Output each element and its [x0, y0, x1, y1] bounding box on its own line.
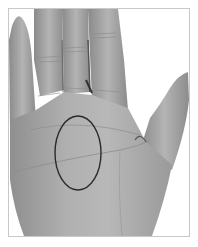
little-finger	[9, 16, 36, 128]
palm-photo	[0, 0, 198, 247]
palm	[10, 92, 172, 236]
ring-finger	[34, 9, 64, 96]
index-finger	[88, 9, 128, 110]
